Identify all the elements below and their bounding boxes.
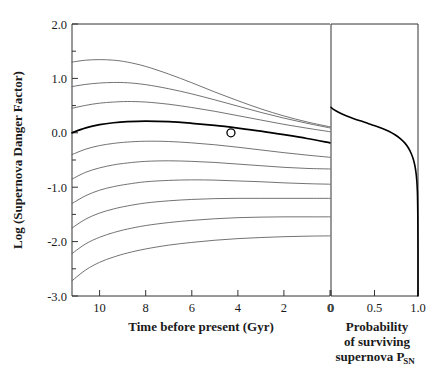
ytick-label-neg3: -3.0: [47, 290, 67, 304]
prob-xtick-label-0: 0: [328, 301, 334, 315]
xtick-label-10: 10: [93, 301, 106, 315]
prob-xtick-label-1p0: 1.0: [410, 301, 426, 315]
ytick-label-neg2: -2.0: [47, 235, 67, 249]
xtick-label-8: 8: [143, 301, 149, 315]
prob-axis-title-line2: of surviving: [344, 334, 411, 349]
figure-container: 2.0 1.0 0.0 -1.0 -2.0 -3.0 10 8 6 4 2 0 …: [0, 0, 445, 372]
ytick-label-2: 2.0: [51, 18, 67, 32]
ytick-label-0: 0.0: [51, 126, 67, 140]
xtick-label-6: 6: [189, 301, 195, 315]
xtick-label-2: 2: [281, 301, 287, 315]
prob-axis-title-line3: supernova P: [336, 349, 405, 364]
prob-axis-title-line1: Probability: [346, 319, 409, 334]
supernova-danger-chart: 2.0 1.0 0.0 -1.0 -2.0 -3.0 10 8 6 4 2 0 …: [0, 0, 445, 372]
prob-xtick-label-0p5: 0.5: [367, 301, 383, 315]
x-axis-title: Time before present (Gyr): [128, 319, 274, 334]
ytick-label-1: 1.0: [51, 72, 67, 86]
y-axis-title: Log (Supernova Danger Factor): [10, 71, 25, 249]
prob-axis-title-subscript: SN: [403, 356, 415, 366]
present-epoch-marker: [227, 129, 235, 137]
xtick-label-4: 4: [235, 301, 242, 315]
ytick-label-neg1: -1.0: [47, 181, 67, 195]
